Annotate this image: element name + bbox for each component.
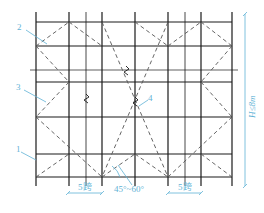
break-mark-left — [84, 94, 89, 103]
diagonal-brace — [36, 154, 69, 177]
diagonal-brace — [69, 22, 102, 46]
diagonal-brace — [168, 117, 232, 177]
label-angle: 45°~60° — [114, 185, 144, 194]
diagonal-brace — [168, 22, 201, 46]
diagonal-brace — [201, 46, 232, 82]
diagonal-brace — [201, 22, 232, 46]
leader-3 — [24, 90, 46, 102]
label-height: H≤8m — [248, 96, 257, 118]
label-item-1: 1 — [16, 145, 21, 154]
label-item-2: 2 — [17, 23, 22, 32]
label-item-3: 3 — [16, 83, 21, 92]
diagonal-brace — [135, 22, 168, 46]
diagonal-brace — [201, 82, 232, 117]
vertical-poles — [36, 12, 232, 186]
diagonal-brace — [36, 46, 69, 82]
label-span-right: 5跨 — [178, 183, 192, 192]
leader-4 — [139, 100, 148, 106]
diagonal-brace — [201, 154, 232, 177]
label-span-left: 5跨 — [78, 183, 92, 192]
leader-angle — [118, 165, 132, 185]
scaffold-bracing-diagram — [0, 0, 264, 213]
horizontal-ledgers — [30, 22, 238, 177]
break-mark-top — [124, 66, 129, 75]
diagonal-brace — [36, 22, 69, 46]
break-marks — [84, 66, 138, 106]
label-item-4: 4 — [148, 94, 153, 103]
leader-1 — [21, 152, 36, 160]
